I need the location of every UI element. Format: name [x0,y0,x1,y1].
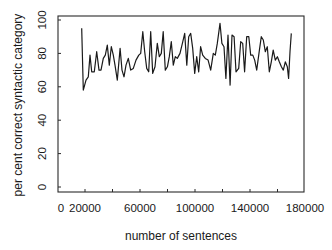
y-tick-label: 100 [36,10,48,29]
y-tick-label: 80 [36,47,48,60]
y-tick-label: 20 [36,147,48,160]
x-tick-label: 20000 [69,202,101,214]
x-tick-label: 0 [58,202,64,214]
y-axis-ticks: 020406080100 [36,10,61,190]
x-tick-label: 140000 [231,202,269,214]
y-tick-label: 60 [36,80,48,93]
x-tick-label: 100000 [176,202,214,214]
x-tick-label: 180000 [286,202,324,214]
plot-frame [58,16,304,192]
y-tick-label: 40 [36,114,48,127]
x-axis-label: number of sentences [125,229,237,243]
data-line [82,23,292,90]
y-axis-label: per cent correct syntactic category [11,14,25,197]
x-tick-label: 60000 [124,202,156,214]
y-tick-label: 0 [36,184,48,190]
line-chart: 02000060000100000140000180000 0204060801… [0,0,332,250]
x-axis-ticks: 02000060000100000140000180000 [58,189,324,214]
